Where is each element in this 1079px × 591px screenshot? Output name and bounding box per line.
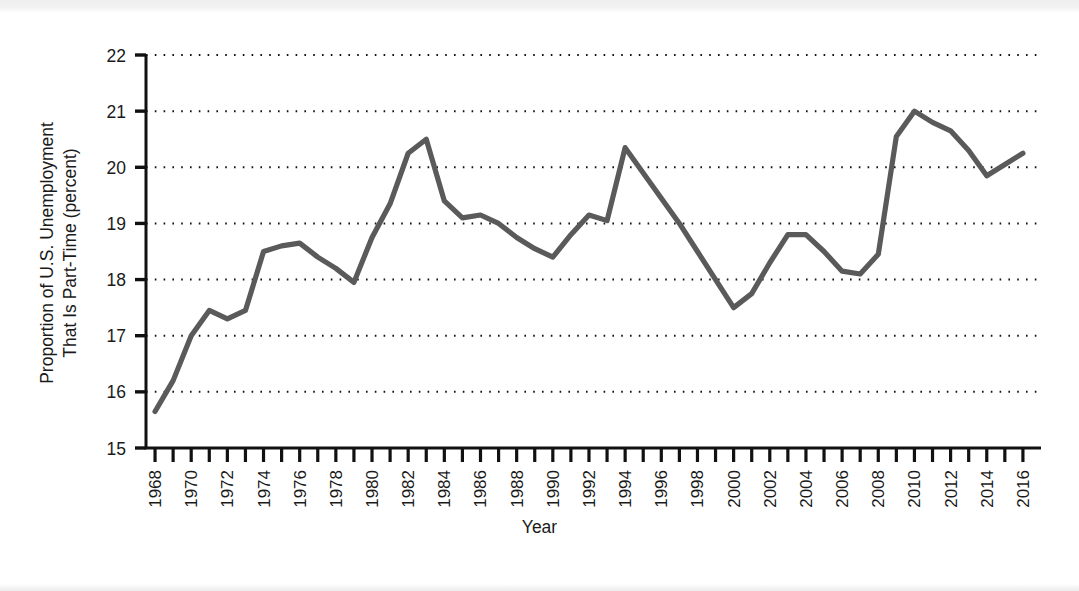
x-tick-label: 1982 — [399, 470, 418, 508]
x-tick-label: 1984 — [435, 470, 454, 508]
x-tick-label: 2014 — [978, 470, 997, 508]
x-tick-label: 2016 — [1014, 470, 1033, 508]
y-axis-title-line2: That Is Part-Time (percent) — [60, 148, 80, 357]
x-tick-label: 1996 — [652, 470, 671, 508]
x-tick-label: 1986 — [471, 470, 490, 508]
x-tick-label: 1994 — [616, 470, 635, 508]
y-axis-title-line1: Proportion of U.S. Unemployment — [37, 122, 57, 384]
y-axis-title: Proportion of U.S. Unemployment That Is … — [36, 53, 82, 453]
figure-page: Proportion of U.S. Unemployment That Is … — [0, 0, 1079, 591]
x-tick-labels: 1968197019721974197619781980198219841986… — [146, 470, 1033, 508]
y-tick-label: 20 — [107, 158, 127, 178]
x-tick-label: 1974 — [255, 470, 274, 508]
x-tick-label: 1998 — [688, 470, 707, 508]
x-tick-label: 2012 — [942, 470, 961, 508]
x-tick-label: 1976 — [291, 470, 310, 508]
y-tick-label: 16 — [107, 382, 126, 402]
x-tick-label: 1980 — [363, 470, 382, 508]
x-tick-marks — [155, 448, 1023, 462]
line-chart: 2221201918171615 19681970197219741976197… — [0, 13, 1079, 573]
x-tick-label: 2008 — [869, 470, 888, 508]
y-tick-label: 17 — [107, 326, 126, 346]
data-series-line — [155, 111, 1023, 411]
x-tick-label: 1972 — [218, 470, 237, 508]
x-tick-label: 2010 — [905, 470, 924, 508]
x-tick-label: 1988 — [508, 470, 527, 508]
y-tick-label: 21 — [107, 102, 126, 122]
scan-artifact-bottom — [0, 584, 1079, 591]
y-tick-marks — [135, 55, 146, 448]
x-tick-label: 2002 — [761, 470, 780, 508]
x-axis-title: Year — [0, 517, 1079, 538]
gridlines — [146, 55, 1041, 392]
x-tick-label: 1992 — [580, 470, 599, 508]
x-tick-label: 1990 — [544, 470, 563, 508]
x-tick-label: 1970 — [182, 470, 201, 508]
chart-figure: Proportion of U.S. Unemployment That Is … — [0, 13, 1079, 573]
x-tick-label: 2004 — [797, 470, 816, 508]
y-tick-label: 19 — [107, 214, 126, 234]
y-tick-label: 22 — [107, 46, 126, 66]
axis-lines — [146, 55, 1041, 448]
x-tick-label: 1968 — [146, 470, 165, 508]
y-tick-label: 15 — [107, 439, 126, 459]
x-tick-label: 2000 — [725, 470, 744, 508]
y-tick-label: 18 — [107, 270, 126, 290]
y-tick-labels: 2221201918171615 — [107, 46, 127, 459]
scan-artifact-top — [0, 0, 1079, 13]
x-tick-label: 2006 — [833, 470, 852, 508]
x-tick-label: 1978 — [327, 470, 346, 508]
